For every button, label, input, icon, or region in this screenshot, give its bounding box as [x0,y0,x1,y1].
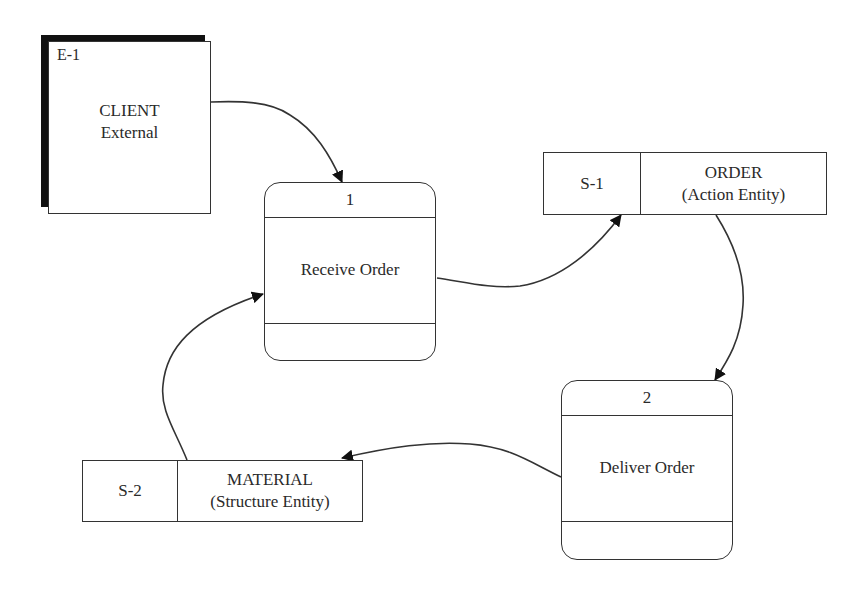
data-store-label: ORDER (Action Entity) [641,153,826,214]
process-number: 2 [562,381,732,416]
data-store-id: S-1 [544,153,641,214]
data-store-material[interactable]: S-2 MATERIAL (Structure Entity) [82,460,363,522]
data-store-id: S-2 [83,461,178,521]
process-deliver-order[interactable]: 2 Deliver Order [561,380,733,560]
external-entity-label: CLIENT External [49,100,210,144]
data-store-order[interactable]: S-1 ORDER (Action Entity) [543,152,827,215]
process-number: 1 [265,183,435,218]
data-store-name: ORDER [705,162,763,184]
flow-deliver-to-material [342,443,561,477]
flow-order-to-deliver [715,215,743,380]
external-entity-type: External [49,122,210,144]
external-entity-client[interactable]: E-1 CLIENT External [48,41,211,214]
data-store-type: (Structure Entity) [210,491,329,513]
process-receive-order[interactable]: 1 Receive Order [264,182,436,361]
data-store-type: (Action Entity) [682,184,785,206]
data-store-label: MATERIAL (Structure Entity) [178,461,362,521]
external-entity-id: E-1 [57,46,80,64]
process-name: Deliver Order [562,415,732,522]
data-store-name: MATERIAL [227,469,313,491]
flow-client-to-receive [211,102,342,182]
flow-material-to-receive [163,294,263,460]
flow-receive-to-order [437,215,621,287]
external-entity-name: CLIENT [49,100,210,122]
process-name: Receive Order [265,217,435,324]
